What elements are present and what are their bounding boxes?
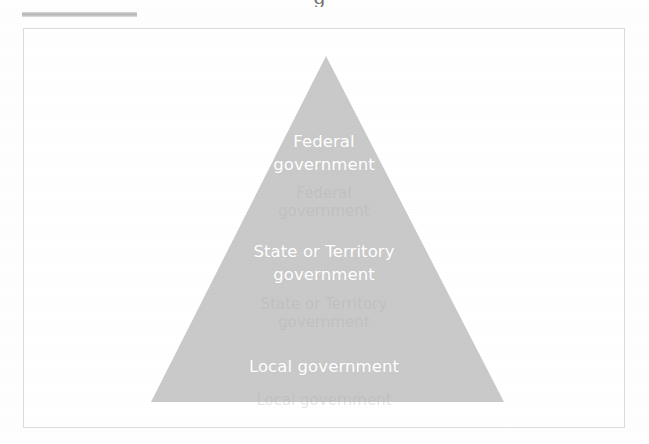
cropped-text-fragment: g <box>290 0 350 7</box>
figure-inner: Federal government State or Territory go… <box>24 29 624 427</box>
figure-container: Federal government State or Territory go… <box>23 28 625 428</box>
redacted-heading-bar <box>22 12 137 17</box>
pyramid-diagram <box>24 29 625 428</box>
scanned-page: g Federal government State or Territory … <box>0 0 649 444</box>
pyramid-triangle-shape <box>151 56 504 402</box>
